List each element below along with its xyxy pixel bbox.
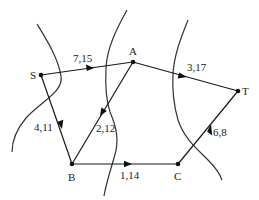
arrow-s-a-icon	[86, 65, 94, 72]
node-b	[70, 162, 75, 167]
node-s	[39, 73, 44, 78]
node-t	[236, 89, 241, 94]
node-label-b: B	[68, 171, 75, 183]
edge-label-a-t: 3,17	[187, 61, 207, 73]
edge-label-s-a: 7,15	[73, 52, 93, 64]
arrow-b-c-icon	[124, 161, 132, 167]
arrow-a-b-icon	[100, 108, 107, 116]
edge-s-b	[41, 75, 72, 164]
node-label-s: S	[30, 69, 36, 81]
node-c	[176, 162, 181, 167]
arrow-a-t-icon	[178, 72, 187, 78]
edge-c-t	[178, 91, 238, 164]
edge-label-s-b: 4,11	[34, 121, 53, 133]
network-diagram: S A T B C 7,15 3,17 4,11 2,12 1,14 6,8	[0, 0, 259, 200]
node-a	[131, 60, 136, 65]
edge-label-c-t: 6,8	[213, 126, 227, 138]
edge-label-b-c: 1,14	[120, 169, 140, 181]
node-label-t: T	[242, 85, 249, 97]
cut-curve-right	[173, 20, 222, 180]
node-label-a: A	[129, 45, 137, 57]
edge-label-a-b: 2,12	[96, 122, 115, 134]
node-label-c: C	[174, 170, 181, 182]
